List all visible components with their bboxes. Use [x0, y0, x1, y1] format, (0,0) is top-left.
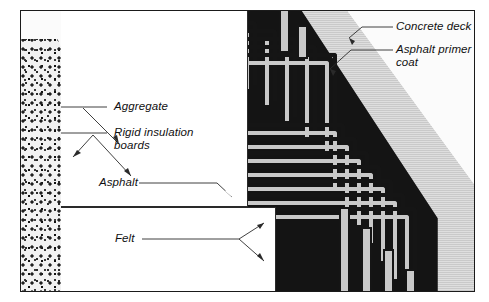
felt-ply-stub [405, 269, 416, 292]
felt-ply-stub [361, 227, 372, 292]
felt-ply-stub [297, 25, 308, 59]
label-aggregate: Aggregate [114, 100, 168, 113]
figure-root: Aggregate Rigid insulation boards Asphal… [0, 0, 489, 302]
callout-box-lower [61, 207, 276, 292]
felt-ply-stub [383, 249, 394, 292]
diagram-frame: Aggregate Rigid insulation boards Asphal… [20, 10, 475, 292]
felt-ply-stub [279, 10, 290, 53]
label-rigid-insulation-boards: Rigid insulation boards [114, 126, 194, 152]
label-felt: Felt [115, 232, 135, 245]
label-asphalt: Asphalt [99, 176, 138, 189]
label-concrete-deck: Concrete deck [396, 20, 471, 33]
label-asphalt-primer-coat: Asphalt primer coat [396, 43, 472, 69]
felt-ply-stub [339, 207, 350, 292]
